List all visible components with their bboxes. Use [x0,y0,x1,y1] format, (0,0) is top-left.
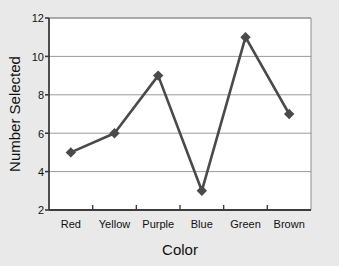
plot-area-background [49,18,311,210]
x-axis-title: Color [162,241,198,258]
chart-canvas: 2 4 6 8 10 12 Red Yellow Purple Blue Gre… [0,0,339,266]
y-tick-label: 2 [38,204,44,216]
y-tick-label: 6 [38,128,44,140]
x-category-label: Red [61,218,81,230]
y-tick-label: 4 [38,166,44,178]
x-category-label: Brown [274,218,305,230]
x-category-label: Blue [191,218,213,230]
x-category-label: Purple [142,218,174,230]
y-axis-title: Number Selected [6,56,23,172]
y-tick-label: 8 [38,89,44,101]
line-chart: 2 4 6 8 10 12 Red Yellow Purple Blue Gre… [0,0,339,266]
x-category-label: Green [230,218,261,230]
x-category-label: Yellow [99,218,130,230]
y-tick-label: 10 [32,51,44,63]
y-tick-label: 12 [32,12,44,24]
